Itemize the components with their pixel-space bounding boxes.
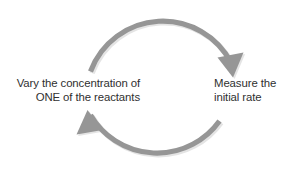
- step-label-measure-rate: Measure the initial rate: [214, 76, 286, 104]
- cycle-diagram: Vary the concentration of ONE of the rea…: [0, 0, 286, 180]
- bottom-arc-path: [91, 115, 220, 153]
- step-label-vary-concentration: Vary the concentration of ONE of the rea…: [4, 76, 140, 104]
